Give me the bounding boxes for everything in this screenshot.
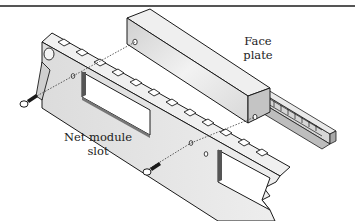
face-plate-label-line2: plate	[228, 48, 288, 62]
net-module-slot-label-line2: slot	[58, 144, 138, 158]
net-module-slot-label: Net module slot	[58, 130, 138, 158]
assembly-diagram	[0, 0, 355, 221]
face-plate-label-line1: Face	[228, 34, 288, 48]
screw-left	[20, 94, 38, 107]
net-module-slot-label-line1: Net module	[58, 130, 138, 144]
face-plate-label: Face plate	[228, 34, 288, 62]
